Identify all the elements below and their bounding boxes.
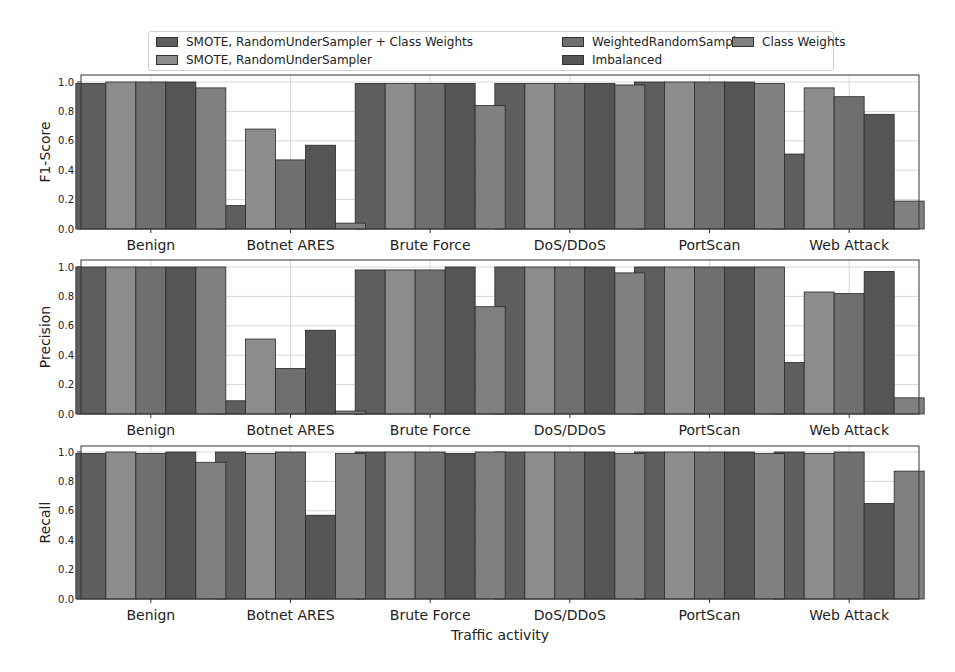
- panel-recall: 0.00.20.40.60.81.0BenignBotnet ARESBrute…: [37, 446, 924, 623]
- x-tick-label: Web Attack: [809, 607, 890, 623]
- bar: [755, 83, 785, 229]
- bar: [475, 452, 505, 599]
- bar: [585, 452, 615, 599]
- bar: [196, 267, 226, 414]
- bar: [894, 398, 924, 414]
- bar: [525, 452, 555, 599]
- bar: [276, 452, 306, 599]
- y-tick-label: 0.0: [58, 594, 74, 605]
- bar: [445, 267, 475, 414]
- bar: [755, 267, 785, 414]
- bar: [445, 83, 475, 229]
- x-tick-label: Web Attack: [809, 422, 890, 438]
- y-tick-label: 0.0: [58, 224, 74, 235]
- bar: [355, 270, 385, 414]
- x-tick-label: Botnet ARES: [246, 422, 334, 438]
- y-tick-label: 1.0: [58, 262, 74, 273]
- x-tick-label: PortScan: [679, 237, 741, 253]
- bar: [136, 82, 166, 229]
- bar: [555, 267, 585, 414]
- bar: [525, 267, 555, 414]
- bar: [415, 452, 445, 599]
- bar: [695, 452, 725, 599]
- bar: [725, 452, 755, 599]
- y-tick-label: 0.6: [58, 505, 74, 516]
- x-tick-label: Brute Force: [390, 237, 471, 253]
- y-axis-label: Precision: [37, 306, 53, 368]
- bar: [615, 273, 645, 414]
- x-tick-label: DoS/DDoS: [534, 237, 606, 253]
- bar: [445, 453, 475, 599]
- y-tick-label: 0.4: [58, 165, 74, 176]
- bar: [246, 339, 276, 414]
- y-tick-label: 0.0: [58, 409, 74, 420]
- bar: [166, 452, 196, 599]
- x-tick-label: Benign: [126, 422, 175, 438]
- y-tick-label: 0.2: [58, 379, 74, 390]
- bar: [336, 223, 366, 229]
- y-tick-label: 0.4: [58, 535, 74, 546]
- x-axis-label: Traffic activity: [450, 627, 549, 643]
- x-tick-label: Web Attack: [809, 237, 890, 253]
- bar: [864, 503, 894, 599]
- bar: [76, 83, 106, 229]
- bar: [665, 267, 695, 414]
- bar: [585, 83, 615, 229]
- bar: [695, 267, 725, 414]
- bar: [864, 271, 894, 414]
- bar: [106, 452, 136, 599]
- x-tick-label: Benign: [126, 237, 175, 253]
- bar: [665, 82, 695, 229]
- bar: [695, 82, 725, 229]
- bar: [385, 270, 415, 414]
- x-tick-label: DoS/DDoS: [534, 422, 606, 438]
- bar: [166, 82, 196, 229]
- x-tick-label: Botnet ARES: [246, 607, 334, 623]
- bar: [894, 201, 924, 229]
- bar: [385, 452, 415, 599]
- bar: [555, 83, 585, 229]
- x-tick-label: PortScan: [679, 422, 741, 438]
- bar: [306, 145, 336, 229]
- y-tick-label: 0.6: [58, 135, 74, 146]
- x-tick-label: Benign: [126, 607, 175, 623]
- x-tick-label: PortScan: [679, 607, 741, 623]
- panel-f1-score: 0.00.20.40.60.81.0BenignBotnet ARESBrute…: [37, 75, 924, 253]
- bar: [615, 453, 645, 599]
- y-tick-label: 1.0: [58, 77, 74, 88]
- bar: [834, 452, 864, 599]
- bar: [415, 83, 445, 229]
- bar: [196, 462, 226, 599]
- bar: [355, 83, 385, 229]
- bar: [306, 330, 336, 414]
- bar: [336, 453, 366, 599]
- bar: [196, 88, 226, 229]
- y-tick-label: 0.2: [58, 564, 74, 575]
- y-axis-label: Recall: [37, 502, 53, 544]
- bar: [106, 267, 136, 414]
- bar: [525, 83, 555, 229]
- bar: [76, 453, 106, 599]
- bar: [136, 453, 166, 599]
- bar: [864, 114, 894, 229]
- x-tick-label: Brute Force: [390, 422, 471, 438]
- bar: [555, 452, 585, 599]
- y-tick-label: 0.8: [58, 106, 74, 117]
- x-tick-label: DoS/DDoS: [534, 607, 606, 623]
- bar: [894, 471, 924, 599]
- bar: [276, 368, 306, 414]
- y-tick-label: 0.6: [58, 320, 74, 331]
- bar: [725, 267, 755, 414]
- x-tick-label: Botnet ARES: [246, 237, 334, 253]
- bar: [475, 307, 505, 414]
- bar: [385, 83, 415, 229]
- bar: [415, 270, 445, 414]
- bar: [615, 85, 645, 229]
- bar: [755, 453, 785, 599]
- bar: [246, 453, 276, 599]
- y-tick-label: 0.8: [58, 476, 74, 487]
- y-tick-label: 0.8: [58, 291, 74, 302]
- bar-chart: 0.00.20.40.60.81.0BenignBotnet ARESBrute…: [0, 0, 955, 672]
- panel-precision: 0.00.20.40.60.81.0BenignBotnet ARESBrute…: [37, 260, 924, 438]
- bar: [725, 82, 755, 229]
